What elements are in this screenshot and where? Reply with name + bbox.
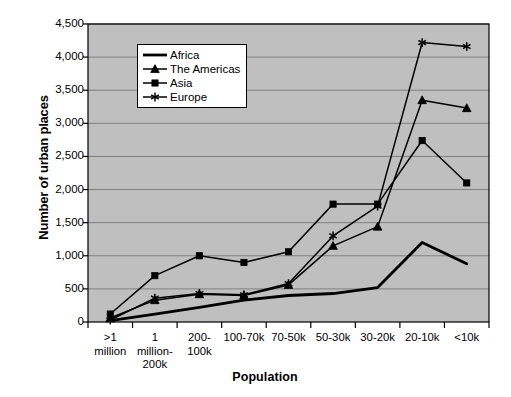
legend-marker-triangle-icon (141, 62, 169, 76)
legend-marker-square-icon (141, 76, 169, 90)
legend-item-europe: Europe (141, 90, 242, 104)
legend-marker (152, 80, 158, 86)
x-tick-label: <10k (438, 331, 496, 345)
legend-item-label: Africa (169, 49, 199, 61)
legend-marker-none-icon (141, 48, 169, 62)
legend-item-the-americas: The Americas (141, 62, 242, 76)
legend-item-asia: Asia (141, 76, 242, 90)
legend-item-label: Europe (169, 91, 207, 103)
x-axis-tick-labels: >1 million1 million- 200k200- 100k100-70… (0, 0, 511, 397)
chart-legend: AfricaThe AmericasAsiaEurope (137, 44, 247, 108)
legend-item-label: The Americas (169, 63, 240, 75)
legend-item-label: Asia (169, 77, 192, 89)
chart-container: Number of urban places 05001,0001,5002,0… (0, 0, 511, 397)
legend-item-africa: Africa (141, 48, 242, 62)
legend-marker-star-icon (141, 90, 169, 104)
x-axis-title: Population (100, 370, 430, 384)
